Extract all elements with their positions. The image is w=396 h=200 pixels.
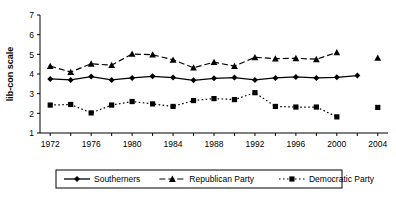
lib-con-scale-line-chart: 1234567197219761980198419881992199620002…: [0, 0, 396, 200]
legend-label: Southerners: [94, 174, 140, 184]
data-point: [89, 110, 94, 115]
data-point: [314, 104, 319, 109]
data-point: [232, 97, 237, 102]
x-tick-label: 1976: [82, 139, 101, 149]
data-point: [293, 104, 298, 109]
x-tick-label: 1988: [205, 139, 224, 149]
y-tick-label: 3: [29, 89, 34, 99]
x-tick-label: 1972: [41, 139, 60, 149]
data-point: [191, 98, 196, 103]
data-point: [48, 102, 53, 107]
x-tick-label: 1984: [164, 139, 183, 149]
data-point: [68, 102, 73, 107]
data-point: [252, 90, 257, 95]
x-tick-label: 1980: [123, 139, 142, 149]
data-point: [130, 99, 135, 104]
y-tick-label: 2: [29, 109, 34, 119]
data-point: [211, 96, 216, 101]
data-point-detached: [375, 105, 380, 110]
x-tick-label: 2000: [327, 139, 346, 149]
y-tick-label: 6: [29, 30, 34, 40]
y-tick-label: 7: [29, 10, 34, 20]
legend-marker: [289, 176, 294, 181]
legend-label: Republican Party: [189, 174, 254, 184]
x-tick-label: 1996: [286, 139, 305, 149]
x-tick-label: 1992: [245, 139, 264, 149]
data-point: [150, 101, 155, 106]
x-tick-label: 2004: [368, 139, 387, 149]
data-point: [273, 104, 278, 109]
data-point: [170, 104, 175, 109]
chart-figure: 1234567197219761980198419881992199620002…: [0, 0, 396, 200]
legend-label: Democratic Party: [309, 174, 375, 184]
data-point: [109, 102, 114, 107]
y-tick-label: 1: [29, 128, 34, 138]
y-tick-label: 5: [29, 50, 34, 60]
y-axis-title: lib-con scale: [5, 47, 15, 102]
data-point: [334, 114, 339, 119]
y-tick-label: 4: [29, 69, 34, 79]
